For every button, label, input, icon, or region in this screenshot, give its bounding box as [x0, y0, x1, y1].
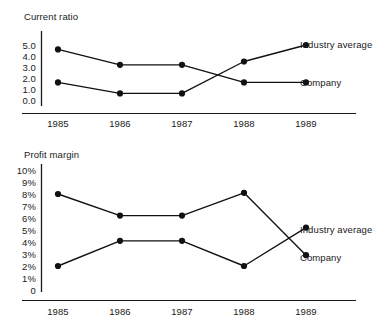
data-point: [55, 263, 61, 269]
data-line-series-b: [58, 193, 306, 255]
data-point: [179, 90, 185, 96]
data-point: [55, 191, 61, 197]
series-label-company: Company: [300, 252, 341, 263]
x-tick-label: 1987: [152, 306, 212, 317]
data-point: [241, 263, 247, 269]
x-tick-label: 1989: [276, 306, 336, 317]
data-point: [117, 213, 123, 219]
x-tick-label: 1988: [214, 118, 274, 129]
series-label-company: Company: [300, 77, 341, 88]
data-point: [117, 90, 123, 96]
x-tick-label: 1985: [28, 118, 88, 129]
data-line-series-a: [58, 228, 306, 266]
data-point: [55, 46, 61, 52]
x-tick-label: 1989: [276, 118, 336, 129]
data-point: [179, 238, 185, 244]
series-label-industry-average: Industry average: [300, 39, 372, 50]
data-point: [241, 79, 247, 85]
x-tick-label: 1988: [214, 306, 274, 317]
x-tick-label: 1985: [28, 306, 88, 317]
data-point: [55, 79, 61, 85]
x-tick-label: 1986: [90, 118, 150, 129]
series-label-industry-average: Industry average: [300, 224, 372, 235]
data-point: [241, 190, 247, 196]
chart-profit-margin: Profit margin 10% 9% 8% 7% 6% 5% 4% 3% 2…: [0, 140, 390, 336]
data-point: [179, 62, 185, 68]
x-tick-label: 1986: [90, 306, 150, 317]
data-point: [117, 238, 123, 244]
data-point: [241, 58, 247, 64]
data-line-series-a: [58, 45, 306, 93]
x-tick-label: 1987: [152, 118, 212, 129]
data-point: [117, 62, 123, 68]
data-point: [179, 213, 185, 219]
data-point-markers: [55, 190, 309, 269]
